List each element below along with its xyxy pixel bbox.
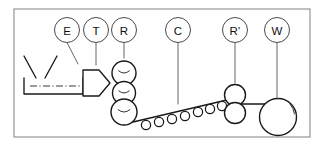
conveyor-roller xyxy=(205,104,214,113)
conveyor-roller-group xyxy=(141,101,226,129)
leader-extruder xyxy=(67,43,78,65)
label-text-die-head: T xyxy=(92,25,99,37)
label-balloon-winder[interactable]: W xyxy=(265,18,290,43)
label-balloon-conveyor[interactable]: C xyxy=(166,18,191,43)
conveyor-roller xyxy=(180,111,189,120)
label-text-extruder: E xyxy=(63,25,71,37)
feed-hopper xyxy=(24,56,57,78)
label-balloon-extruder[interactable]: E xyxy=(55,18,80,43)
winder-roll-circle xyxy=(260,99,297,136)
diagram-canvas: ETRCR’W xyxy=(0,0,322,146)
label-balloon-die-head[interactable]: T xyxy=(84,18,109,43)
sheet-die xyxy=(83,70,110,96)
label-text-winder: W xyxy=(272,25,283,37)
conveyor-roller xyxy=(167,114,176,123)
extrusion-line-diagram: ETRCR’W xyxy=(0,0,322,146)
label-text-conveyor: C xyxy=(174,25,182,37)
pull-roll-lower xyxy=(225,103,246,124)
conveyor-roller xyxy=(141,120,150,129)
conveyor-roller xyxy=(193,107,202,116)
conveyor-roller xyxy=(154,117,163,126)
winder-roll xyxy=(260,99,297,136)
label-balloon-pull-rolls[interactable]: R’ xyxy=(223,18,248,43)
calender-roll-stack xyxy=(111,61,137,125)
label-balloon-calender-rolls[interactable]: R xyxy=(112,18,137,43)
label-text-calender-rolls: R xyxy=(120,25,128,37)
label-text-pull-rolls: R’ xyxy=(230,25,241,37)
label-balloon-group: ETRCR’W xyxy=(55,18,290,43)
